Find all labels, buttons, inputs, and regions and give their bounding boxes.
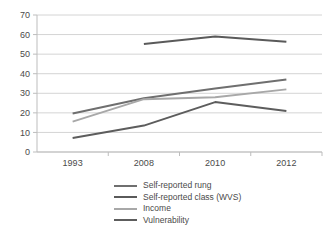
y-tick-label: 30	[20, 88, 30, 98]
legend-item-self-reported-rung: Self-reported rung	[114, 180, 324, 192]
legend-label: Vulnerability	[143, 215, 189, 227]
series-line	[144, 37, 287, 44]
x-tick-label: 2012	[276, 158, 296, 168]
y-tick-labels: 010203040506070	[20, 10, 30, 157]
y-tick-marks	[33, 15, 37, 152]
legend-label: Self-reported rung	[143, 180, 212, 192]
y-tick-label: 40	[20, 69, 30, 79]
gridlines	[37, 15, 322, 152]
legend-swatch-vulnerability	[114, 219, 137, 221]
series-line	[73, 80, 287, 114]
y-tick-label: 70	[20, 10, 30, 20]
chart-figure: 010203040506070 1993200820102012 Self-re…	[0, 0, 331, 235]
x-tick-label: 1993	[63, 158, 83, 168]
y-tick-label: 20	[20, 108, 30, 118]
data-series-lines	[73, 37, 287, 138]
y-tick-label: 60	[20, 30, 30, 40]
legend-swatch-income	[114, 208, 137, 210]
legend-item-self-reported-class: Self-reported class (WVS)	[114, 192, 324, 204]
legend-item-vulnerability: Vulnerability	[114, 215, 324, 227]
y-tick-label: 50	[20, 49, 30, 59]
y-tick-label: 0	[25, 147, 30, 157]
legend-swatch-self-reported-class	[114, 196, 137, 198]
x-tick-label: 2008	[134, 158, 154, 168]
legend-item-income: Income	[114, 203, 324, 215]
legend-label: Self-reported class (WVS)	[143, 192, 241, 204]
x-tick-marks	[108, 152, 322, 156]
legend-swatch-self-reported-rung	[114, 185, 137, 187]
legend-label: Income	[143, 203, 171, 215]
y-tick-label: 10	[20, 128, 30, 138]
chart-legend: Self-reported rung Self-reported class (…	[114, 180, 324, 226]
x-tick-labels: 1993200820102012	[63, 158, 297, 168]
x-tick-label: 2010	[205, 158, 225, 168]
